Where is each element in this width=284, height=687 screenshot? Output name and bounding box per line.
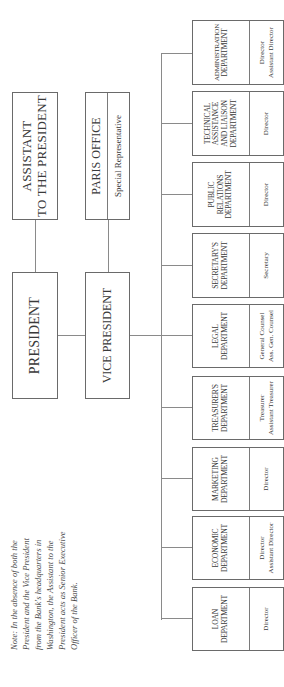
connector-administration xyxy=(161,53,192,54)
department-roles: Secretary xyxy=(249,234,283,297)
president-box: PRESIDENT xyxy=(12,272,58,399)
connector-secretary xyxy=(161,265,192,266)
role-line: Director xyxy=(258,536,266,559)
paris-office-title: PARIS OFFICE xyxy=(86,93,107,219)
president-title: PRESIDENT xyxy=(13,273,57,398)
role-line: Director xyxy=(262,112,270,135)
role-line: Ass. Gen. Counsel xyxy=(267,310,275,362)
assistant-to-president-box: ASSISTANT TO THE PRESIDENT xyxy=(12,92,58,220)
role-line: Secretary xyxy=(262,252,270,278)
assistant-title-line1: ASSISTANT xyxy=(20,121,35,192)
dept-name-line: DEPARTMENT xyxy=(221,29,230,77)
department-roles: Director xyxy=(249,448,283,510)
department-roles: Director xyxy=(249,163,283,226)
department-economic: ECONOMIC DEPARTMENT Director Assistant D… xyxy=(192,516,284,580)
department-administration: ADMINISTRATION DEPARTMENT Director Assis… xyxy=(192,20,284,85)
dept-name-line: DEPARTMENT xyxy=(221,384,230,432)
paris-office-box: PARIS OFFICE Special Representative xyxy=(85,92,130,220)
connector-loan xyxy=(161,618,192,619)
role-line: Assistant Director xyxy=(267,523,275,574)
assistant-title: ASSISTANT TO THE PRESIDENT xyxy=(13,93,57,219)
department-name: TECHNICAL ASSISTANCE AND LIAISON DEPARTM… xyxy=(193,92,249,155)
dept-name-line: DEPARTMENT xyxy=(221,455,230,503)
department-bus-line xyxy=(161,53,162,620)
footnote: Note: In the absence of both the Preside… xyxy=(8,490,80,650)
connector-vp-bus xyxy=(130,335,161,336)
dept-name-line: DEPARTMENT xyxy=(221,312,230,360)
connector-treasurer xyxy=(161,407,192,408)
department-loan: LOAN DEPARTMENT Director xyxy=(192,587,284,651)
role-line: Treasurer xyxy=(258,395,266,422)
department-roles: Director xyxy=(249,588,283,650)
vice-president-box: VICE PRESIDENT xyxy=(85,272,130,399)
department-name: ADMINISTRATION DEPARTMENT xyxy=(193,21,249,84)
role-line: Director xyxy=(262,467,270,490)
role-line: Assistant Treasurer xyxy=(267,381,275,435)
department-public-relations: PUBLIC RELATIONS DEPARTMENT Director xyxy=(192,162,284,227)
department-roles: Treasurer Assistant Treasurer xyxy=(249,377,283,439)
department-legal: LEGAL DEPARTMENT General Counsel Ass. Ge… xyxy=(192,304,284,368)
role-line: Director xyxy=(262,607,270,630)
department-name: SECRETARY'S DEPARTMENT xyxy=(193,234,249,297)
vice-president-title: VICE PRESIDENT xyxy=(86,273,129,398)
connector-assistant-president xyxy=(35,220,36,272)
connector-president-vp xyxy=(58,335,85,336)
dept-name-line: DEPARTMENT xyxy=(221,595,230,643)
role-line: Director xyxy=(258,41,266,64)
department-roles: Director Assistant Director xyxy=(249,517,283,579)
connector-paris-vp xyxy=(108,220,109,272)
department-marketing: MARKETING DEPARTMENT Director xyxy=(192,447,284,511)
department-name: PUBLIC RELATIONS DEPARTMENT xyxy=(193,163,249,226)
connector-economic xyxy=(161,547,192,548)
connector-marketing xyxy=(161,478,192,479)
assistant-title-line2: TO THE PRESIDENT xyxy=(35,95,50,217)
dept-name-line: DEPARTMENT xyxy=(225,171,234,219)
role-line: General Counsel xyxy=(258,313,266,360)
paris-office-role: Special Representative xyxy=(107,93,129,219)
department-name: TREASURER'S DEPARTMENT xyxy=(193,377,249,439)
connector-public-relations xyxy=(161,194,192,195)
dept-name-line: DEPARTMENT xyxy=(221,524,230,572)
department-name: ECONOMIC DEPARTMENT xyxy=(193,517,249,579)
dept-name-line: DEPARTMENT xyxy=(221,242,230,290)
dept-name-line: DEPARTMENT xyxy=(230,100,239,148)
department-roles: Director xyxy=(249,92,283,155)
department-technical-assistance: TECHNICAL ASSISTANCE AND LIAISON DEPARTM… xyxy=(192,91,284,156)
role-line: Director xyxy=(262,183,270,206)
role-line: Assistant Director xyxy=(267,27,275,78)
org-chart: ASSISTANT TO THE PRESIDENT PARIS OFFICE … xyxy=(0,0,284,687)
department-roles: General Counsel Ass. Gen. Counsel xyxy=(249,305,283,367)
department-roles: Director Assistant Director xyxy=(249,21,283,84)
connector-technical xyxy=(161,123,192,124)
connector-legal xyxy=(161,335,192,336)
department-name: LEGAL DEPARTMENT xyxy=(193,305,249,367)
department-name: MARKETING DEPARTMENT xyxy=(193,448,249,510)
department-name: LOAN DEPARTMENT xyxy=(193,588,249,650)
department-treasurer: TREASURER'S DEPARTMENT Treasurer Assista… xyxy=(192,376,284,440)
department-secretary: SECRETARY'S DEPARTMENT Secretary xyxy=(192,233,284,298)
